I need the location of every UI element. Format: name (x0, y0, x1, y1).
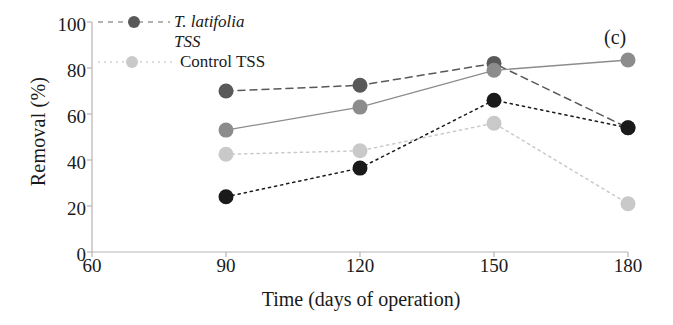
series-marker-1-0 (219, 123, 234, 138)
series-marker-0-0 (219, 84, 234, 99)
series-marker-3-2 (487, 93, 502, 108)
x-tick-60: 60 (62, 256, 122, 275)
series-marker-2-1 (353, 143, 368, 158)
x-axis-title: Time (days of operation) (92, 288, 630, 311)
series-marker-2-0 (219, 147, 234, 162)
legend-label-t-latifolia: T. latifolia (174, 12, 245, 31)
chart-figure: 100 80 60 40 20 0 60 90 120 150 180 Remo… (0, 0, 673, 325)
legend-swatch-t-latifolia (96, 12, 172, 32)
series-line-3 (226, 100, 628, 197)
panel-label: (c) (604, 26, 626, 49)
chart-legend: T. latifolia TSS Control TSS (96, 12, 316, 74)
legend-entry-control-tss: Control TSS (96, 52, 176, 72)
series-marker-3-3 (621, 120, 636, 135)
series-marker-2-2 (487, 116, 502, 131)
legend-label-control-tss: Control TSS (180, 52, 265, 71)
x-tick-90: 90 (196, 256, 256, 275)
legend-swatch-control-tss (96, 52, 176, 72)
legend-label-tss: TSS (174, 32, 200, 51)
series-marker-3-0 (219, 189, 234, 204)
legend-entry-t-latifolia: T. latifolia (96, 12, 172, 32)
x-tick-180: 180 (598, 256, 658, 275)
series-marker-1-1 (353, 100, 368, 115)
y-axis-title: Removal (%) (27, 32, 50, 232)
series-marker-1-3 (621, 53, 636, 68)
series-marker-2-3 (621, 196, 636, 211)
series-marker-1-2 (487, 63, 502, 78)
x-tick-120: 120 (330, 256, 390, 275)
x-tick-150: 150 (464, 256, 524, 275)
series-line-2 (226, 123, 628, 204)
series-marker-3-1 (353, 161, 368, 176)
series-marker-0-1 (353, 78, 368, 93)
